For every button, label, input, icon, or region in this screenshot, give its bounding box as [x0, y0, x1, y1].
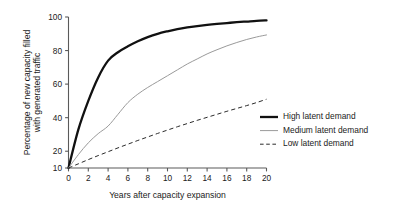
x-tick-label: 12: [183, 173, 193, 183]
x-tick-label: 10: [163, 173, 173, 183]
legend-label-high-latent-demand: High latent demand: [283, 111, 356, 121]
x-axis-title: Years after capacity expansion: [109, 190, 226, 200]
y-tick-label: 100: [48, 12, 62, 22]
data-series: [69, 20, 267, 168]
x-tick-label: 16: [222, 173, 232, 183]
line-chart: 102040608010002468101214161820 High late…: [0, 0, 398, 215]
x-tick-label: 0: [66, 173, 71, 183]
y-tick-label: 60: [53, 79, 63, 89]
chart-legend: High latent demandMedium latent demandLo…: [260, 111, 369, 148]
x-tick-label: 18: [242, 173, 252, 183]
legend-label-medium-latent-demand: Medium latent demand: [283, 125, 369, 135]
x-tick-label: 4: [106, 173, 111, 183]
chart-figure: 102040608010002468101214161820 High late…: [0, 0, 398, 215]
x-tick-label: 2: [86, 173, 91, 183]
legend-label-low-latent-demand: Low latent demand: [283, 138, 354, 148]
x-tick-label: 20: [262, 173, 272, 183]
y-tick-label: 80: [53, 46, 63, 56]
series-line-medium-latent-demand: [69, 35, 267, 168]
y-tick-label: 10: [53, 163, 63, 173]
y-tick-label: 20: [53, 146, 63, 156]
y-axis-title: Percentage of new capacity filledwith ge…: [22, 29, 42, 155]
x-tick-label: 14: [202, 173, 212, 183]
axes: 102040608010002468101214161820: [48, 12, 271, 183]
x-tick-label: 6: [126, 173, 131, 183]
y-tick-label: 40: [53, 113, 63, 123]
y-axis-title-line: Percentage of new capacity filled: [22, 29, 32, 155]
y-axis-title-line: with generated traffic: [32, 52, 42, 133]
x-tick-label: 8: [145, 173, 150, 183]
